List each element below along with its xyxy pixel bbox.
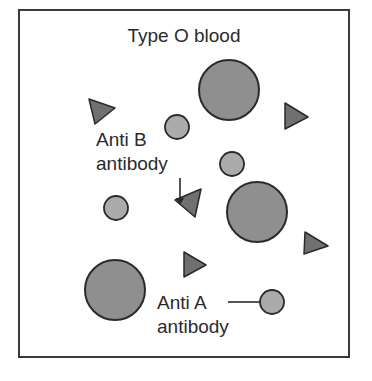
type-o-blood-diagram: Type O blood Anti B antibody Anti A anti…	[0, 0, 372, 381]
anti-a-antibody-circle	[220, 152, 244, 176]
anti-b-label-line1: Anti B	[96, 129, 147, 150]
large-circle	[227, 182, 287, 242]
anti-a-label-line1: Anti A	[157, 292, 207, 313]
anti-a-label-line2: antibody	[157, 316, 229, 337]
large-circle	[85, 260, 145, 320]
anti-a-antibody-circle	[104, 196, 128, 220]
anti-b-label-line2: antibody	[96, 153, 168, 174]
large-circle	[199, 60, 259, 120]
anti-a-antibody-circle	[260, 290, 284, 314]
diagram-title: Type O blood	[127, 25, 240, 46]
anti-a-antibody-circle	[165, 115, 189, 139]
